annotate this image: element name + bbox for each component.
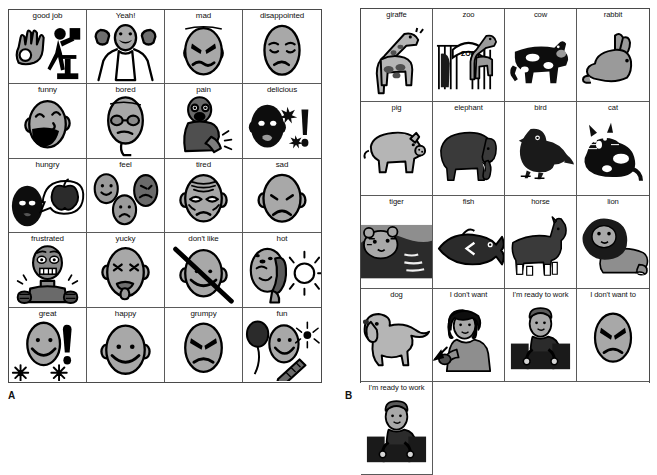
card-grumpy[interactable]: grumpy bbox=[165, 308, 243, 382]
card-label: good job bbox=[9, 11, 86, 20]
person-pushing-away-icon bbox=[433, 299, 504, 380]
balloon-face-party-horn-icon bbox=[243, 318, 321, 381]
card-pig[interactable]: pig bbox=[361, 102, 433, 195]
disappointed-face-icon bbox=[243, 20, 321, 82]
card-label: lion bbox=[577, 197, 649, 206]
cheering-person-icon bbox=[87, 20, 164, 82]
card-i-dont-want[interactable]: I don't want bbox=[433, 289, 505, 382]
card-zoo[interactable]: zoo ZOO bbox=[433, 9, 505, 102]
zoo-gate-icon: ZOO bbox=[433, 19, 504, 100]
card-bird[interactable]: bird bbox=[505, 102, 577, 195]
panel-b-grid: giraffe zoo bbox=[361, 9, 649, 382]
card-label: bird bbox=[505, 103, 576, 112]
card-great[interactable]: great bbox=[9, 308, 87, 382]
card-label: pig bbox=[361, 103, 432, 112]
card-label: cat bbox=[577, 103, 649, 112]
card-cat[interactable]: cat bbox=[577, 102, 649, 195]
card-hot[interactable]: hot bbox=[243, 233, 321, 307]
tiger-icon bbox=[361, 206, 432, 287]
grumpy-face-icon bbox=[165, 318, 242, 381]
card-label: I'm ready to work bbox=[361, 383, 432, 392]
card-label: sad bbox=[243, 160, 321, 169]
empty-cell bbox=[505, 382, 577, 475]
ok-hand-and-person-at-podium-icon bbox=[9, 20, 86, 82]
pig-icon bbox=[361, 112, 432, 193]
card-label: cow bbox=[505, 10, 576, 19]
card-rabbit[interactable]: rabbit bbox=[577, 9, 649, 102]
card-dont-like[interactable]: don't like bbox=[165, 233, 243, 307]
card-label: hot bbox=[243, 234, 321, 243]
card-i-dont-want-to[interactable]: I don't want to bbox=[577, 289, 649, 382]
card-mad[interactable]: mad bbox=[165, 10, 243, 84]
dark-face-thinking-apple-icon bbox=[9, 169, 86, 231]
card-label: I don't want to bbox=[577, 290, 649, 299]
card-happy[interactable]: happy bbox=[87, 308, 165, 382]
card-im-ready-to-work-2[interactable]: I'm ready to work bbox=[361, 382, 433, 475]
card-label: tired bbox=[165, 160, 242, 169]
card-delicious[interactable]: delicious bbox=[243, 84, 321, 158]
card-tiger[interactable]: tiger bbox=[361, 196, 433, 289]
card-funny[interactable]: funny bbox=[9, 84, 87, 158]
card-yucky[interactable]: yucky bbox=[87, 233, 165, 307]
card-pain[interactable]: pain bbox=[165, 84, 243, 158]
card-disappointed[interactable]: disappointed bbox=[243, 10, 321, 84]
three-faces-icon bbox=[87, 169, 164, 231]
card-label: elephant bbox=[433, 103, 504, 112]
card-frustrated[interactable]: frustrated bbox=[9, 233, 87, 307]
card-feel[interactable]: feel bbox=[87, 159, 165, 233]
card-yeah[interactable]: Yeah! bbox=[87, 10, 165, 84]
card-label: hungry bbox=[9, 160, 86, 169]
card-fun[interactable]: fun bbox=[243, 308, 321, 382]
card-label: tiger bbox=[361, 197, 432, 206]
card-label: fun bbox=[243, 309, 321, 318]
smiling-face-exclamation-sparkles-icon bbox=[9, 318, 86, 381]
card-dog[interactable]: dog bbox=[361, 289, 433, 382]
cat-icon bbox=[577, 112, 649, 193]
bird-icon bbox=[505, 112, 576, 193]
card-label: don't like bbox=[165, 234, 242, 243]
card-label: delicious bbox=[243, 85, 321, 94]
empty-cell bbox=[577, 382, 649, 475]
angry-face-icon bbox=[165, 20, 242, 82]
cow-icon bbox=[505, 19, 576, 100]
card-im-ready-to-work[interactable]: I'm ready to work bbox=[505, 289, 577, 382]
yucky-face-tongue-out-icon bbox=[87, 243, 164, 305]
panel-a-grid: good job bbox=[9, 10, 321, 382]
card-horse[interactable]: horse bbox=[505, 196, 577, 289]
card-label: yucky bbox=[87, 234, 164, 243]
person-at-desk-icon bbox=[505, 299, 576, 380]
rabbit-icon bbox=[577, 19, 649, 100]
card-label: zoo bbox=[433, 10, 504, 19]
smiling-face-crossed-out-icon bbox=[165, 243, 242, 305]
happy-face-icon bbox=[87, 318, 164, 381]
card-label: feel bbox=[87, 160, 164, 169]
card-good-job[interactable]: good job bbox=[9, 10, 87, 84]
card-bored[interactable]: bored bbox=[87, 84, 165, 158]
panel-b-animals-board: giraffe zoo bbox=[360, 8, 650, 383]
card-cow[interactable]: cow bbox=[505, 9, 577, 102]
card-label: frustrated bbox=[9, 234, 86, 243]
card-label: giraffe bbox=[361, 10, 432, 19]
card-lion[interactable]: lion bbox=[577, 196, 649, 289]
person-hurt-arm-icon bbox=[165, 94, 242, 156]
elephant-icon bbox=[433, 112, 504, 193]
card-hungry[interactable]: hungry bbox=[9, 159, 87, 233]
panel-a-label: A bbox=[8, 390, 15, 401]
card-giraffe[interactable]: giraffe bbox=[361, 9, 433, 102]
card-tired[interactable]: tired bbox=[165, 159, 243, 233]
dog-icon bbox=[361, 299, 432, 380]
card-label: rabbit bbox=[577, 10, 649, 19]
card-label: funny bbox=[9, 85, 86, 94]
card-label: I'm ready to work bbox=[505, 290, 576, 299]
fish-icon bbox=[433, 206, 504, 287]
dark-face-tongue-and-exclamation-icon bbox=[243, 94, 321, 156]
laughing-face-icon bbox=[9, 94, 86, 156]
lion-icon bbox=[577, 206, 649, 287]
card-fish[interactable]: fish bbox=[433, 196, 505, 289]
card-sad[interactable]: sad bbox=[243, 159, 321, 233]
empty-cell bbox=[433, 382, 505, 475]
card-label: mad bbox=[165, 11, 242, 20]
card-label: happy bbox=[87, 309, 164, 318]
card-elephant[interactable]: elephant bbox=[433, 102, 505, 195]
frustrated-person-fists-icon bbox=[9, 243, 86, 305]
